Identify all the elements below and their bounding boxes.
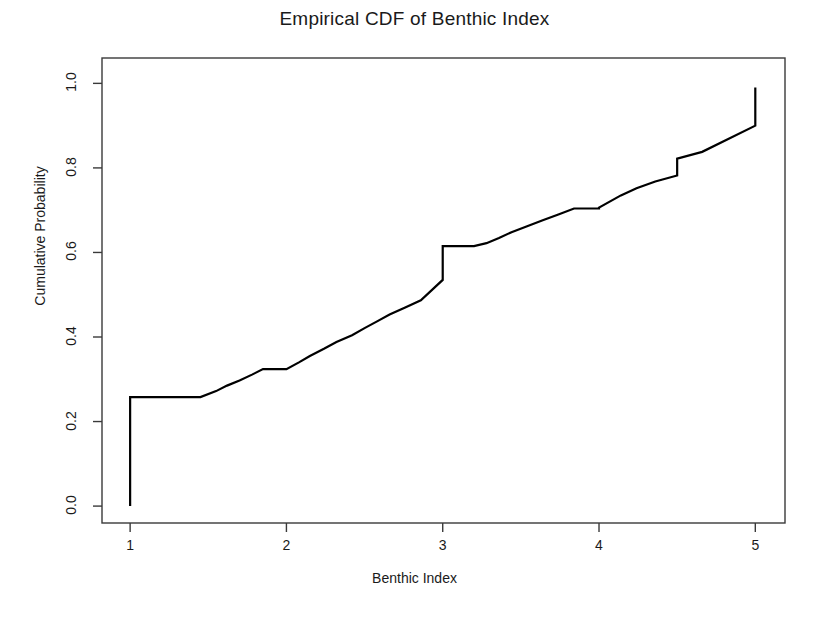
plot-canvas — [0, 0, 829, 617]
ecdf-figure: Empirical CDF of Benthic Index 12345 0.0… — [0, 0, 829, 617]
y-tick-label: 0.0 — [63, 483, 79, 527]
x-tick-label: 1 — [110, 537, 150, 553]
x-tick-label: 2 — [266, 537, 306, 553]
y-axis-ticks — [93, 83, 102, 506]
plot-frame — [102, 58, 785, 523]
x-tick-label: 5 — [735, 537, 775, 553]
y-tick-label: 0.4 — [63, 314, 79, 358]
y-tick-label: 0.8 — [63, 145, 79, 189]
x-axis-title: Benthic Index — [0, 570, 829, 586]
y-tick-label: 0.2 — [63, 399, 79, 443]
y-axis-title: Cumulative Probability — [32, 136, 48, 336]
x-tick-label: 4 — [579, 537, 619, 553]
ecdf-step-line — [130, 88, 755, 507]
y-tick-label: 0.6 — [63, 229, 79, 273]
y-tick-label: 1.0 — [63, 60, 79, 104]
x-axis-ticks — [130, 523, 755, 532]
x-tick-label: 3 — [423, 537, 463, 553]
